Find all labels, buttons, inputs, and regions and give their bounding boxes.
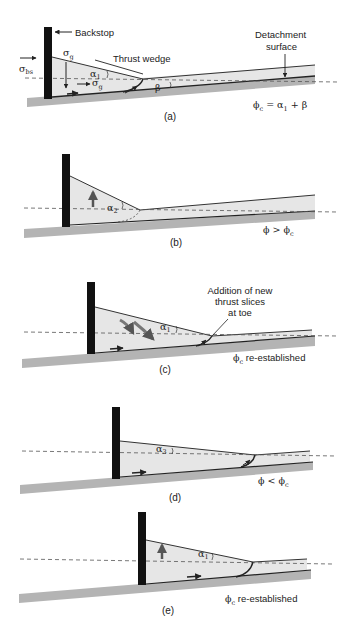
sigma-bs-label: σbs: [19, 63, 33, 76]
backstop: [87, 282, 95, 354]
detachment-label-1: Detachment: [255, 29, 307, 40]
condition-d: ϕ < ϕc: [258, 475, 289, 489]
caption-e: (e): [162, 605, 174, 616]
panel-a: Backstop σbs σg σg α1 Thrust wedge β Det…: [19, 27, 338, 122]
backstop-label: Backstop: [75, 27, 114, 38]
panel-c: α1 Addition of new thrust slices at toe …: [22, 282, 338, 375]
backstop: [138, 512, 146, 585]
caption-c: (c): [159, 364, 171, 375]
sigma-g-top-label: σg: [63, 47, 74, 61]
caption-d: (d): [169, 492, 181, 503]
panel-e: α1 ϕc re-established (e): [19, 512, 332, 616]
annotation-line-1: Addition of new: [208, 285, 273, 296]
backstop: [112, 407, 120, 479]
condition-e: ϕc re-established: [225, 593, 297, 607]
panel-d: α3 ϕ < ϕc (d): [20, 407, 336, 503]
annotation-line-2: thrust slices: [215, 296, 265, 307]
thrust-wedge-diagram: Backstop σbs σg σg α1 Thrust wedge β Det…: [0, 0, 347, 625]
annotation-line-3: at toe: [228, 307, 252, 318]
condition-a: ϕc = α1 + β: [253, 99, 308, 113]
beta-label: β: [155, 82, 161, 93]
annotation-pointer: [212, 319, 228, 336]
detachment-label-2: surface: [266, 41, 297, 52]
panel-b: α2 ϕ > ϕc (b): [24, 154, 338, 248]
thrust-wedge-label: Thrust wedge: [113, 53, 171, 64]
backstop: [62, 154, 70, 227]
backstop: [44, 27, 52, 99]
caption-a: (a): [164, 111, 176, 122]
condition-c: ϕc re-established: [233, 352, 305, 366]
condition-b: ϕ > ϕc: [263, 224, 294, 238]
caption-b: (b): [170, 237, 182, 248]
